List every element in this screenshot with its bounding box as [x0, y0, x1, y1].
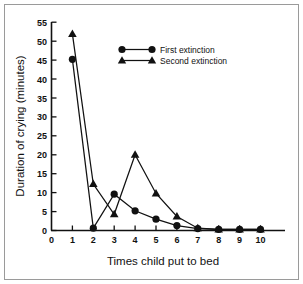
legend-label-first-extinction: First extinction [160, 45, 215, 55]
data-point [90, 225, 97, 232]
x-tick-label: 4 [133, 235, 138, 245]
legend-marker-circle [118, 46, 125, 53]
y-tick-label: 55 [37, 18, 47, 28]
x-tick-label: 5 [153, 235, 158, 245]
data-point [89, 180, 98, 188]
legend-label-second-extinction: Second extinction [160, 56, 227, 66]
series-first-extinction [69, 56, 264, 233]
legend-marker-circle [148, 46, 155, 53]
y-tick-label: 10 [37, 188, 47, 198]
x-tick-label: 3 [112, 235, 117, 245]
y-axis-title: Duration of crying (minutes) [14, 55, 26, 196]
y-tick-label: 45 [37, 56, 47, 66]
y-tick-label: 40 [37, 75, 47, 85]
x-tick-label: 10 [255, 235, 265, 245]
data-point [69, 56, 76, 63]
y-tick-label: 25 [37, 131, 47, 141]
x-axis-tick-labels: 0 1 2 3 4 5 6 7 8 9 10 [49, 235, 266, 245]
x-tick-label: 9 [237, 235, 242, 245]
y-tick-label: 50 [37, 37, 47, 47]
x-tick-label: 2 [91, 235, 96, 245]
x-tick-label: 6 [174, 235, 179, 245]
y-tick-label: 30 [37, 112, 47, 122]
series-markers-first-extinction [69, 56, 264, 233]
data-point [152, 189, 161, 197]
y-tick-label: 20 [37, 150, 47, 160]
x-tick-label: 1 [70, 235, 75, 245]
line-chart: 0 5 10 15 20 25 30 35 40 45 50 55 [0, 0, 303, 284]
figure-container: 0 5 10 15 20 25 30 35 40 45 50 55 [0, 0, 303, 284]
y-tick-label: 15 [37, 169, 47, 179]
series-line-first-extinction [72, 59, 260, 229]
x-axis-title: Times child put to bed [107, 255, 219, 267]
y-tick-label: 35 [37, 94, 47, 104]
legend-entry-second-extinction: Second extinction [118, 56, 228, 66]
data-point [132, 207, 139, 214]
x-tick-label: 8 [216, 235, 221, 245]
data-point [152, 216, 159, 223]
y-axis-tick-labels: 0 5 10 15 20 25 30 35 40 45 50 55 [37, 18, 47, 236]
data-point [173, 222, 180, 229]
chart-legend: First extinction Second extinction [118, 45, 228, 66]
y-tick-label: 0 [42, 226, 47, 236]
x-tick-label: 7 [195, 235, 200, 245]
legend-entry-first-extinction: First extinction [118, 45, 215, 55]
data-point [131, 150, 140, 158]
data-point [111, 191, 118, 198]
x-tick-label: 0 [49, 235, 54, 245]
y-tick-label: 5 [42, 207, 47, 217]
data-point [68, 29, 77, 37]
